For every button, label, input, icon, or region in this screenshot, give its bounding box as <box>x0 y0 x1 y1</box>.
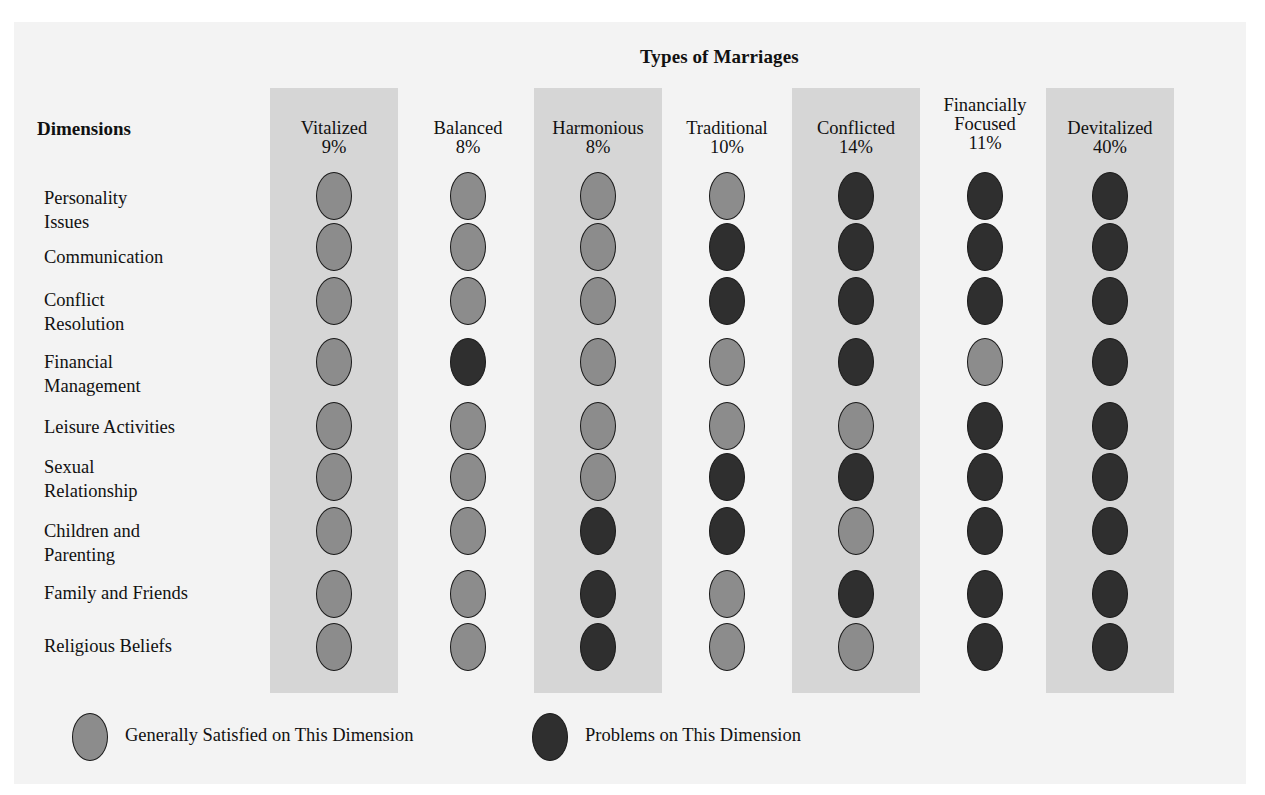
row-label: Sexual <box>44 455 94 479</box>
row-label-line2: Management <box>44 374 141 398</box>
chart-title: Types of Marriages <box>640 46 940 68</box>
problems-dot-icon <box>1092 223 1128 271</box>
satisfied-dot-icon <box>450 623 486 671</box>
row-label-line2: Resolution <box>44 312 124 336</box>
satisfied-dot-icon <box>580 402 616 450</box>
satisfied-dot-icon <box>450 402 486 450</box>
row-label-line2: Issues <box>44 210 89 234</box>
legend: Generally Satisfied on This Dimension Pr… <box>0 713 1265 763</box>
column-name-line1: Financially <box>910 96 1060 115</box>
problems-dot-icon <box>1092 402 1128 450</box>
problems-dot-icon <box>1092 338 1128 386</box>
problems-dot-icon <box>967 623 1003 671</box>
column-header: Devitalized40% <box>1035 119 1185 157</box>
problems-dot-icon <box>838 277 874 325</box>
row-label: Leisure Activities <box>44 415 175 439</box>
satisfied-dot-icon <box>580 453 616 501</box>
problems-dot-icon <box>450 338 486 386</box>
problems-dot-icon <box>838 223 874 271</box>
satisfied-dot-icon <box>316 570 352 618</box>
column-name: Vitalized <box>259 119 409 138</box>
satisfied-dot-icon <box>450 172 486 220</box>
satisfied-dot-icon <box>72 713 108 761</box>
problems-dot-icon <box>580 623 616 671</box>
satisfied-dot-icon <box>580 338 616 386</box>
column-percent: 40% <box>1035 138 1185 157</box>
row-label: Family and Friends <box>44 581 188 605</box>
row-label: Conflict <box>44 288 105 312</box>
column-percent: 8% <box>393 138 543 157</box>
satisfied-dot-icon <box>580 223 616 271</box>
satisfied-dot-icon <box>709 623 745 671</box>
column-name: Harmonious <box>523 119 673 138</box>
problems-dot-icon <box>709 453 745 501</box>
column-header: Vitalized9% <box>259 119 409 157</box>
row-label-line2: Parenting <box>44 543 115 567</box>
satisfied-dot-icon <box>316 453 352 501</box>
satisfied-dot-icon <box>316 223 352 271</box>
satisfied-dot-icon <box>838 402 874 450</box>
problems-dot-icon <box>838 453 874 501</box>
satisfied-dot-icon <box>580 172 616 220</box>
problems-dot-icon <box>838 338 874 386</box>
column-header: Harmonious8% <box>523 119 673 157</box>
satisfied-dot-icon <box>450 570 486 618</box>
problems-dot-icon <box>1092 172 1128 220</box>
column-percent: 14% <box>781 138 931 157</box>
problems-dot-icon <box>1092 507 1128 555</box>
row-label: Financial <box>44 350 113 374</box>
satisfied-dot-icon <box>316 338 352 386</box>
problems-dot-icon <box>967 277 1003 325</box>
satisfied-dot-icon <box>709 172 745 220</box>
column-percent: 9% <box>259 138 409 157</box>
column-header: Traditional10% <box>652 119 802 157</box>
problems-dot-icon <box>580 507 616 555</box>
satisfied-dot-icon <box>580 277 616 325</box>
satisfied-dot-icon <box>316 402 352 450</box>
column-name: Balanced <box>393 119 543 138</box>
row-label-line2: Relationship <box>44 479 138 503</box>
problems-dot-icon <box>967 507 1003 555</box>
problems-dot-icon <box>532 713 568 761</box>
row-label: Personality <box>44 186 127 210</box>
legend-satisfied-label: Generally Satisfied on This Dimension <box>125 725 413 746</box>
satisfied-dot-icon <box>450 277 486 325</box>
row-label: Children and <box>44 519 140 543</box>
problems-dot-icon <box>967 570 1003 618</box>
problems-dot-icon <box>1092 570 1128 618</box>
problems-dot-icon <box>709 507 745 555</box>
satisfied-dot-icon <box>967 338 1003 386</box>
problems-dot-icon <box>967 453 1003 501</box>
satisfied-dot-icon <box>316 277 352 325</box>
column-header: Balanced8% <box>393 119 543 157</box>
column-name: Devitalized <box>1035 119 1185 138</box>
problems-dot-icon <box>709 223 745 271</box>
satisfied-dot-icon <box>838 623 874 671</box>
column-header: Conflicted14% <box>781 119 931 157</box>
satisfied-dot-icon <box>316 507 352 555</box>
problems-dot-icon <box>967 172 1003 220</box>
satisfied-dot-icon <box>316 172 352 220</box>
satisfied-dot-icon <box>450 507 486 555</box>
satisfied-dot-icon <box>709 402 745 450</box>
problems-dot-icon <box>709 277 745 325</box>
column-name: Conflicted <box>781 119 931 138</box>
problems-dot-icon <box>838 570 874 618</box>
problems-dot-icon <box>1092 277 1128 325</box>
row-label: Religious Beliefs <box>44 634 172 658</box>
problems-dot-icon <box>967 402 1003 450</box>
column-percent: 8% <box>523 138 673 157</box>
legend-problems-label: Problems on This Dimension <box>585 725 801 746</box>
row-label: Communication <box>44 245 163 269</box>
satisfied-dot-icon <box>709 338 745 386</box>
satisfied-dot-icon <box>709 570 745 618</box>
satisfied-dot-icon <box>838 507 874 555</box>
column-name: Traditional <box>652 119 802 138</box>
problems-dot-icon <box>967 223 1003 271</box>
problems-dot-icon <box>580 570 616 618</box>
satisfied-dot-icon <box>316 623 352 671</box>
problems-dot-icon <box>1092 623 1128 671</box>
satisfied-dot-icon <box>450 223 486 271</box>
column-percent: 10% <box>652 138 802 157</box>
satisfied-dot-icon <box>450 453 486 501</box>
